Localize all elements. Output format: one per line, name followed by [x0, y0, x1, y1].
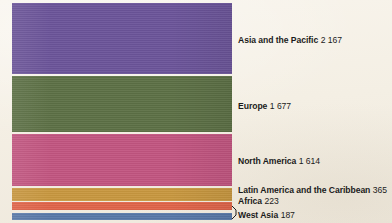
label-asia-and-the-pacific: Asia and the Pacific2 167: [238, 35, 342, 45]
label-value: 223: [265, 196, 279, 206]
label-north-america: North America1 614: [238, 156, 320, 166]
label-africa: Africa223: [238, 196, 279, 206]
chart-labels-column: Asia and the Pacific2 167 Europe1 677 No…: [238, 0, 392, 223]
label-value: 187: [281, 210, 295, 220]
band-north-america[interactable]: [12, 134, 232, 186]
label-name: Africa: [238, 196, 262, 206]
label-value: 1 614: [299, 156, 320, 166]
label-name: Asia and the Pacific: [238, 35, 318, 45]
band-asia-and-the-pacific[interactable]: [12, 3, 232, 74]
band-africa[interactable]: [12, 202, 232, 210]
label-europe: Europe1 677: [238, 101, 291, 111]
label-name: West Asia: [238, 210, 278, 220]
band-latin-america-and-the-caribbean[interactable]: [12, 188, 232, 201]
label-value: 1 677: [270, 101, 291, 111]
band-west-asia[interactable]: [12, 213, 232, 220]
label-latin-america-and-the-caribbean: Latin America and the Caribbean365: [238, 185, 387, 195]
west-asia-leader-bracket: [231, 205, 238, 220]
stacked-band-chart: Asia and the Pacific2 167 Europe1 677 No…: [0, 0, 392, 223]
label-value: 2 167: [321, 35, 342, 45]
label-west-asia: West Asia187: [238, 210, 295, 220]
band-europe[interactable]: [12, 76, 232, 132]
label-name: Europe: [238, 101, 267, 111]
label-name: North America: [238, 156, 296, 166]
label-value: 365: [373, 185, 387, 195]
label-name: Latin America and the Caribbean: [238, 185, 370, 195]
chart-plot-area: [12, 3, 232, 223]
